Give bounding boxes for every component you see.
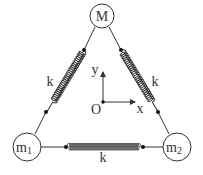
spring-left <box>35 27 95 134</box>
y-axis-label: y <box>92 62 99 77</box>
spring-right <box>109 27 169 134</box>
x-axis-label: x <box>137 101 144 116</box>
mass-m2: m2 <box>163 133 191 161</box>
spring-right-label: k <box>152 74 159 89</box>
spring-triangle-diagram: M m1 m2 k k k y O x <box>0 0 203 175</box>
coordinate-axes <box>101 72 135 104</box>
diagram-canvas: M m1 m2 k k k y O x <box>0 0 203 175</box>
mass-m1: m1 <box>13 133 41 161</box>
spring-left-label: k <box>47 74 54 89</box>
mass-M: M <box>90 4 114 28</box>
mass-M-label: M <box>96 9 109 24</box>
spring-bottom-label: k <box>100 150 107 165</box>
origin-dot <box>101 100 105 104</box>
origin-label: O <box>91 102 101 117</box>
